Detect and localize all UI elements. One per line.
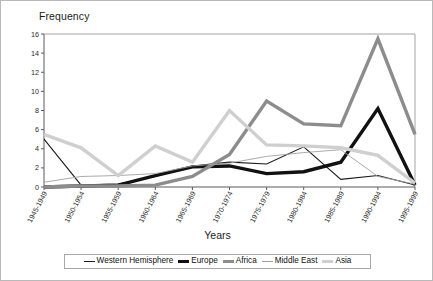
legend-label: Middle East (275, 257, 318, 265)
chart-legend: Western HemisphereEuropeAfricaMiddle Eas… (64, 254, 371, 269)
x-axis-tick-label: 1995-1999 (396, 190, 420, 225)
legend-swatch-thick-gray-line (223, 260, 234, 263)
legend-swatch-thin-gray-line (262, 261, 273, 262)
series-line-asia (44, 111, 415, 184)
legend-label: Western Hemisphere (97, 257, 174, 265)
y-axis-tick-label: 14 (31, 49, 39, 58)
x-axis-tick-label: 1985-1989 (322, 190, 346, 225)
x-axis-tick-label: 1975-1979 (248, 190, 272, 225)
legend-item[interactable]: Asia (322, 257, 351, 265)
x-axis-tick-label: 1990-1994 (359, 190, 383, 225)
legend-label: Africa (236, 257, 257, 265)
legend-swatch-thin-light-gray-line (322, 260, 333, 263)
y-axis-tick-label: 12 (31, 68, 39, 77)
x-axis-tick-label: 1955-1959 (99, 190, 123, 225)
y-axis-tick-label: 6 (35, 125, 39, 134)
series-line-europe (44, 109, 415, 187)
x-axis-tick-label: 1980-1984 (285, 190, 309, 225)
legend-item[interactable]: Western Hemisphere (84, 257, 174, 265)
legend-swatch-thin-black-line (84, 261, 95, 262)
y-axis-tick-label: 0 (35, 183, 39, 192)
x-axis-title: Years (1, 229, 433, 241)
x-axis-tick-label: 1965-1969 (174, 190, 198, 225)
legend-item[interactable]: Middle East (262, 257, 318, 265)
y-axis-tick-label: 2 (35, 163, 39, 172)
legend-item[interactable]: Europe (178, 257, 217, 265)
legend-label: Asia (335, 257, 351, 265)
legend-swatch-thick-black-line (178, 260, 189, 263)
x-axis-tick-label: 1950-1954 (62, 190, 86, 225)
chart-figure: Frequency 02468101214161945-19491950-195… (0, 0, 433, 281)
y-axis-tick-label: 16 (31, 30, 39, 39)
y-axis-tick-label: 4 (35, 144, 39, 153)
y-axis-tick-label: 10 (31, 87, 39, 96)
legend-label: Europe (191, 257, 217, 265)
x-axis-tick-label: 1960-1964 (136, 190, 160, 225)
legend-item[interactable]: Africa (223, 257, 257, 265)
x-axis-tick-label: 1970-1974 (211, 190, 235, 225)
x-axis-tick-label: 1945-1949 (25, 190, 49, 225)
y-axis-tick-label: 8 (35, 106, 39, 115)
